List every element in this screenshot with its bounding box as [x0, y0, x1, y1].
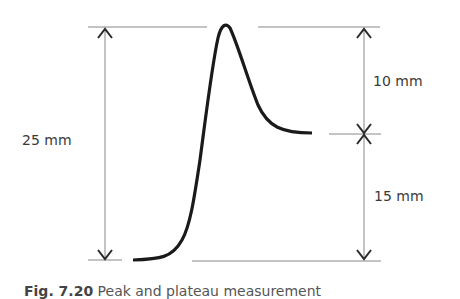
upper-segment-label: 10 mm: [373, 73, 423, 89]
figure-caption: Fig. 7.20 Peak and plateau measurement: [24, 283, 321, 299]
figure-number: Fig. 7.20: [24, 283, 93, 299]
figure-caption-text: Peak and plateau measurement: [98, 283, 322, 299]
total-height-label: 25 mm: [22, 132, 72, 148]
lower-segment-label: 15 mm: [374, 188, 424, 204]
waveform-curve: [133, 25, 312, 260]
